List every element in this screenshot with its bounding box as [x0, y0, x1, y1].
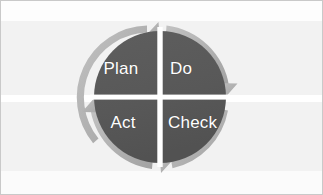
divider-horizontal: [90, 95, 230, 100]
pdca-diagram-image: Plan Do Check Act: [0, 0, 323, 195]
quadrant-label-do: Do: [170, 60, 228, 77]
quadrant-label-plan: Plan: [92, 60, 150, 77]
pdca-cycle-graphic: [0, 0, 323, 195]
quadrant-label-check: Check: [168, 114, 232, 131]
quadrant-label-act: Act: [96, 114, 150, 131]
